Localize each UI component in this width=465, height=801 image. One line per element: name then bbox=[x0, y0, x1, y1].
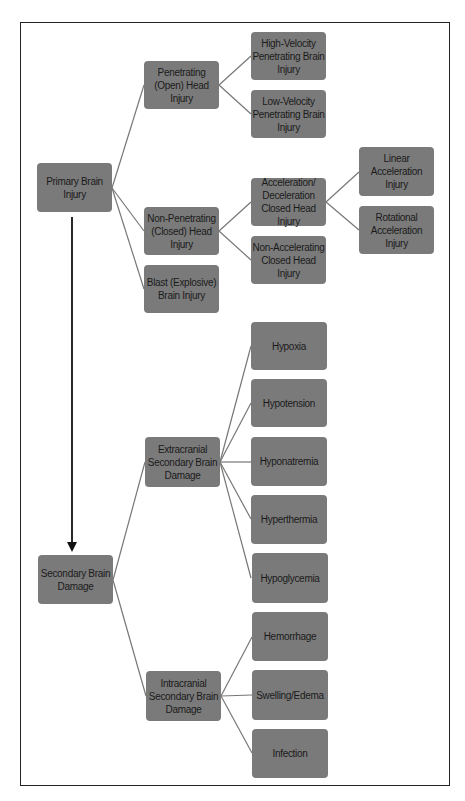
node-linear-acceleration: Linear Acceleration Injury bbox=[359, 147, 434, 196]
node-primary-brain-injury: Primary Brain Injury bbox=[37, 163, 112, 212]
node-hypoglycemia: Hypoglycemia bbox=[252, 553, 328, 603]
node-non-accelerating: Non-Accelerating Closed Head Injury bbox=[251, 236, 326, 284]
node-high-velocity: High-Velocity Penetrating Brain Injury bbox=[251, 32, 326, 80]
node-hypoxia: Hypoxia bbox=[251, 322, 327, 370]
node-infection: Infection bbox=[252, 729, 328, 778]
node-hyponatremia: Hyponatremia bbox=[251, 437, 327, 486]
node-secondary-brain-damage: Secondary Brain Damage bbox=[38, 555, 113, 604]
node-penetrating: Penetrating (Open) Head Injury bbox=[144, 61, 219, 109]
node-rotational-acceleration: Rotational Acceleration Injury bbox=[359, 206, 434, 254]
node-hypotension: Hypotension bbox=[251, 379, 327, 427]
node-acceleration-deceleration: Acceleration/ Deceleration Closed Head I… bbox=[251, 178, 326, 226]
node-intracranial: Intracranial Secondary Brain Damage bbox=[146, 671, 221, 721]
arrow-head-icon bbox=[67, 542, 77, 552]
node-hyperthermia: Hyperthermia bbox=[251, 495, 327, 544]
node-hemorrhage: Hemorrhage bbox=[252, 612, 328, 661]
node-low-velocity: Low-Velocity Penetrating Brain Injury bbox=[251, 90, 326, 138]
node-non-penetrating: Non-Penetrating (Closed) Head Injury bbox=[144, 207, 219, 255]
node-blast: Blast (Explosive) Brain Injury bbox=[144, 265, 219, 313]
connector-lines bbox=[0, 0, 465, 801]
node-extracranial: Extracranial Secondary Brain Damage bbox=[145, 437, 220, 487]
node-swelling-edema: Swelling/Edema bbox=[252, 670, 328, 720]
